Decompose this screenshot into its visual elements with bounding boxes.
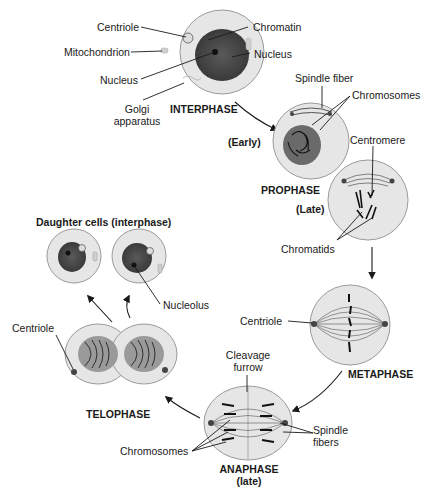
anaphase-cell (204, 386, 292, 460)
stage-interphase: INTERPHASE (170, 103, 238, 115)
stage-anaphase: ANAPHASE (late) (210, 463, 288, 487)
label-cleavage-line2: furrow (222, 361, 274, 373)
label-nucleolus: Nucleolus (163, 299, 209, 311)
label-golgi-line1: Golgi (112, 103, 162, 115)
stage-telophase: TELOPHASE (86, 408, 150, 420)
label-cleavage-furrow: Cleavage furrow (222, 349, 274, 373)
label-nucleus-right: Nucleus (254, 48, 292, 60)
telophase-cell (65, 324, 177, 384)
label-spindle-fiber: Spindle fiber (295, 72, 353, 84)
stage-anaphase-title: ANAPHASE (210, 463, 288, 475)
stage-prophase-early: (Early) (228, 136, 261, 148)
interphase-cell (161, 10, 264, 94)
label-nucleus-left: Nucleus (100, 74, 138, 86)
prophase-early-cell (273, 103, 349, 179)
label-chromosomes-prophase: Chromosomes (352, 89, 420, 101)
label-golgi-apparatus: Golgi apparatus (112, 103, 162, 127)
label-centriole-telophase: Centriole (12, 322, 54, 334)
daughter-cell-left (47, 229, 101, 283)
label-golgi-line2: apparatus (112, 115, 162, 127)
label-mitochondrion: Mitochondrion (64, 46, 130, 58)
prophase-late-cell (328, 160, 408, 240)
stage-prophase-late: (Late) (296, 203, 325, 215)
stage-metaphase: METAPHASE (348, 368, 413, 380)
label-spindle-fibers: Spindle fibers (313, 424, 348, 448)
label-chromosomes-anaphase: Chromosomes (120, 445, 188, 457)
daughter-cell-right (112, 229, 166, 283)
label-spindle-line2: fibers (313, 436, 348, 448)
metaphase-cell (310, 285, 390, 365)
stage-anaphase-late: (late) (210, 475, 288, 487)
label-chromatids: Chromatids (281, 243, 335, 255)
mitosis-diagram (0, 0, 430, 490)
label-chromatin: Chromatin (253, 21, 301, 33)
label-centriole-metaphase: Centriole (240, 315, 282, 327)
stage-daughter-cells: Daughter cells (interphase) (36, 216, 171, 228)
stage-prophase: PROPHASE (261, 184, 320, 196)
label-spindle-line1: Spindle (313, 424, 348, 436)
label-centriole-interphase: Centriole (97, 21, 139, 33)
label-centromere: Centromere (350, 134, 405, 146)
label-cleavage-line1: Cleavage (222, 349, 274, 361)
